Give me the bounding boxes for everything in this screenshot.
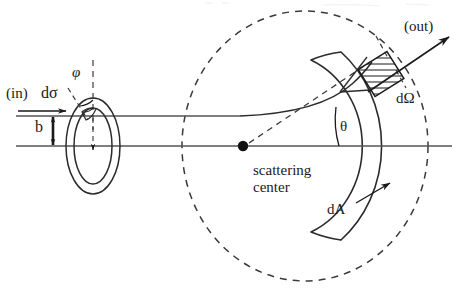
scattering-center-label-line2: center xyxy=(253,179,311,196)
detector-band-bottom-cap xyxy=(311,232,341,240)
area-element-leader-arrow xyxy=(356,183,390,203)
scattering-center-label: scattering center xyxy=(253,162,311,196)
scattered-trajectory xyxy=(240,62,372,116)
scattering-center-dot xyxy=(238,141,248,151)
theta-angle-arc xyxy=(335,107,339,146)
solid-angle-label: dΩ xyxy=(396,91,415,107)
impact-parameter-label: b xyxy=(35,119,43,136)
detector-band-top-cap xyxy=(311,52,341,60)
area-element-label: dA xyxy=(327,202,345,218)
solid-angle-cone-edge-upper xyxy=(340,57,367,92)
incoming-beam-label: (in) xyxy=(6,86,28,102)
cross-section-label: dσ xyxy=(41,85,58,102)
scattering-center-label-line1: scattering xyxy=(253,162,311,179)
phi-leader-dashed xyxy=(68,88,88,120)
outgoing-beam-label: (out) xyxy=(404,19,433,35)
scattering-cross-section-figure: (in) dσ φ b (out) dΩ θ dA scattering cen… xyxy=(0,0,458,290)
top-clipped-artifact xyxy=(205,3,430,6)
azimuthal-angle-label: φ xyxy=(72,65,80,81)
scattering-angle-label: θ xyxy=(340,119,347,135)
figure-canvas xyxy=(0,0,458,290)
